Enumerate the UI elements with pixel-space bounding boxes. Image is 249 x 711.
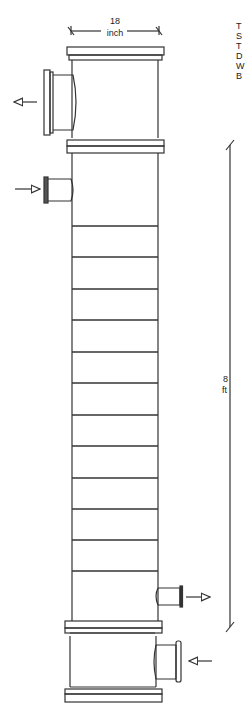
bottom-liquid-outlet-nozzle <box>156 586 210 607</box>
trays <box>72 226 158 571</box>
column-shell <box>72 153 158 621</box>
width-dimension-unit: inch <box>100 29 130 38</box>
top-flange <box>67 47 164 64</box>
height-dimension-value: 8 <box>223 375 228 384</box>
side-label: T <box>236 41 245 51</box>
top-vapor-outlet-nozzle <box>14 70 76 135</box>
lower-body-flange <box>65 621 162 633</box>
reboiler-vapor-inlet-nozzle <box>154 641 212 682</box>
side-label: W <box>236 61 245 71</box>
column-diagram <box>0 0 249 711</box>
height-dimension-unit: ft <box>222 386 227 395</box>
feed-inlet-nozzle <box>15 177 73 203</box>
bottom-head-section <box>70 636 156 687</box>
bottom-flange <box>65 687 162 702</box>
side-label: B <box>236 71 245 81</box>
top-head-section <box>72 64 158 138</box>
side-label-list: T S T D W B <box>236 21 245 81</box>
side-label: S <box>236 31 245 41</box>
side-label: D <box>236 51 245 61</box>
upper-body-flange <box>67 140 164 153</box>
height-dimension-line <box>226 140 234 632</box>
side-label: T <box>236 21 245 31</box>
width-dimension-value: 18 <box>100 17 130 26</box>
